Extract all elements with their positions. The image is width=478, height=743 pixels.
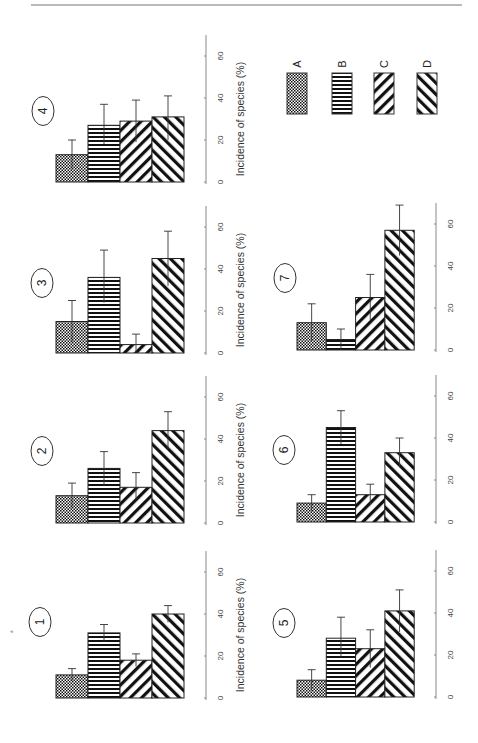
panel-number-label: 6 <box>277 446 291 453</box>
y-tick-label: 20 <box>216 651 225 660</box>
page-marker: * <box>10 628 14 638</box>
y-tick-label: 0 <box>216 695 225 700</box>
y-tick-label: 60 <box>216 392 225 401</box>
panel-number-label: 3 <box>35 279 49 286</box>
y-tick-label: 0 <box>216 350 225 355</box>
y-tick-label: 20 <box>446 475 455 484</box>
y-tick-label: 20 <box>216 476 225 485</box>
y-tick-label: 40 <box>446 608 455 617</box>
bar-B <box>88 633 120 698</box>
legend-swatch <box>332 73 352 114</box>
y-tick-label: 0 <box>216 179 225 184</box>
panel-number-label: 2 <box>35 447 49 454</box>
panel-7: 02040607 <box>274 203 455 352</box>
panel-number-2: 2 <box>31 437 53 466</box>
legend-label: A <box>291 60 303 68</box>
panel-number-7: 7 <box>274 264 296 293</box>
panels: 0204060Incidence of species (%)10204060I… <box>29 35 455 700</box>
panel-3: 0204060Incidence of species (%)3 <box>31 206 246 355</box>
panel-number-6: 6 <box>273 436 295 465</box>
panel-2: 0204060Incidence of species (%)2 <box>31 376 246 525</box>
y-tick-label: 20 <box>216 306 225 315</box>
y-tick-label: 0 <box>446 347 455 352</box>
y-tick-label: 60 <box>446 566 455 575</box>
y-tick-label: 20 <box>446 650 455 659</box>
y-axis-title: Incidence of species (%) <box>234 403 246 517</box>
legend-label: D <box>421 60 433 68</box>
y-tick-label: 0 <box>446 694 455 699</box>
bar-D <box>152 614 184 698</box>
figure: * 0204060Incidence of species (%)1020406… <box>0 0 478 743</box>
y-axis-title: Incidence of species (%) <box>234 578 246 692</box>
y-tick-label: 60 <box>216 567 225 576</box>
y-tick-label: 20 <box>216 135 225 144</box>
panel-number-label: 1 <box>33 618 47 625</box>
y-tick-label: 60 <box>216 222 225 231</box>
y-tick-label: 0 <box>216 520 225 525</box>
panel-number-1: 1 <box>29 608 51 637</box>
y-tick-label: 40 <box>446 261 455 270</box>
y-axis-title: Incidence of species (%) <box>234 62 246 176</box>
y-tick-label: 0 <box>446 519 455 524</box>
panel-5: 02040605 <box>273 550 455 699</box>
panel-number-label: 5 <box>277 619 291 626</box>
y-tick-label: 40 <box>446 433 455 442</box>
legend-swatch <box>374 73 394 114</box>
legend-item-A: A <box>287 60 307 114</box>
legend-item-B: B <box>332 60 352 114</box>
legend-item-C: C <box>374 60 394 114</box>
panel-number-label: 4 <box>36 107 50 114</box>
y-tick-label: 40 <box>216 609 225 618</box>
panel-4: 0204060Incidence of species (%)4 <box>32 35 246 184</box>
legend-item-D: D <box>417 60 437 114</box>
y-axis-title: Incidence of species (%) <box>234 233 246 347</box>
y-tick-label: 20 <box>446 303 455 312</box>
panel-1: 0204060Incidence of species (%)1 <box>29 551 246 700</box>
legend-swatch <box>417 73 437 114</box>
legend-label: C <box>378 60 390 68</box>
panel-number-5: 5 <box>273 609 295 638</box>
panel-number-4: 4 <box>32 97 54 126</box>
y-tick-label: 60 <box>216 51 225 60</box>
y-tick-label: 60 <box>446 391 455 400</box>
legend-swatch <box>287 73 307 114</box>
y-tick-label: 40 <box>216 93 225 102</box>
y-tick-label: 40 <box>216 264 225 273</box>
y-tick-label: 40 <box>216 434 225 443</box>
y-tick-label: 60 <box>446 219 455 228</box>
legend: ABCD <box>287 60 437 114</box>
panel-6: 02040606 <box>273 375 455 524</box>
panel-number-3: 3 <box>31 269 53 298</box>
legend-label: B <box>336 60 348 67</box>
panel-number-label: 7 <box>278 274 292 281</box>
